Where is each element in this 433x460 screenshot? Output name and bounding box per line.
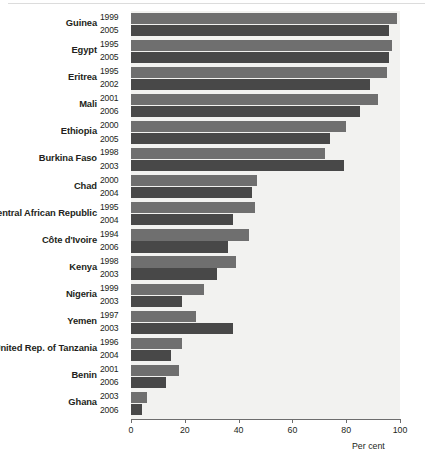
bar-later-survey [131, 268, 217, 279]
bar-later-survey [131, 214, 233, 225]
bar-earlier-survey [131, 94, 378, 105]
bar-group [131, 310, 400, 336]
country-label: Egypt [0, 43, 97, 56]
bar-earlier-survey [131, 67, 387, 78]
page-top-rule [8, 3, 425, 4]
year-label: 2001 [100, 92, 128, 105]
country-label: Mali [0, 97, 97, 110]
chart-row: Burkina Faso19982003 [0, 146, 433, 173]
x-tick [292, 419, 293, 423]
year-label: 2002 [100, 78, 128, 91]
bar-later-survey [131, 404, 142, 415]
x-tick [239, 419, 240, 423]
year-label: 1994 [100, 228, 128, 241]
chart-row: Chad20002004 [0, 174, 433, 201]
bar-group [131, 256, 400, 282]
chart-row: Guinea19992005 [0, 11, 433, 38]
country-label: Benin [0, 368, 97, 381]
country-label: Central African Republic [0, 206, 97, 219]
year-label: 1995 [100, 65, 128, 78]
year-label: 2001 [100, 363, 128, 376]
country-label: Kenya [0, 260, 97, 273]
year-labels: 19952004 [100, 201, 128, 227]
bar-group [131, 229, 400, 255]
year-labels: 20002004 [100, 174, 128, 200]
year-label: 1997 [100, 309, 128, 322]
chart-row: Egypt19952005 [0, 38, 433, 65]
year-labels: 19992005 [100, 11, 128, 37]
year-label: 2006 [100, 105, 128, 118]
country-label: United Rep. of Tanzania [0, 341, 97, 354]
chart-row: United Rep. of Tanzania19962004 [0, 336, 433, 363]
x-axis-line [131, 419, 400, 420]
bar-group [131, 120, 400, 146]
chart-row: Ethiopia20002005 [0, 119, 433, 146]
bar-later-survey [131, 52, 389, 63]
bar-group [131, 93, 400, 119]
bar-earlier-survey [131, 229, 249, 240]
year-label: 2004 [100, 187, 128, 200]
year-label: 1996 [100, 336, 128, 349]
chart-rows: Guinea19992005Egypt19952005Eritrea199520… [0, 11, 433, 417]
year-labels: 19962004 [100, 336, 128, 362]
bar-group [131, 175, 400, 201]
year-label: 2003 [100, 390, 128, 403]
chart-row: Nigeria19992003 [0, 282, 433, 309]
year-label: 2004 [100, 349, 128, 362]
year-label: 1998 [100, 255, 128, 268]
x-tick [131, 419, 132, 423]
year-label: 2004 [100, 214, 128, 227]
year-label: 2003 [100, 160, 128, 173]
x-axis: 020406080100 Per cent [0, 419, 433, 460]
country-label: Ethiopia [0, 124, 97, 137]
year-labels: 20012006 [100, 363, 128, 389]
x-axis-label: Per cent [352, 441, 385, 451]
bar-later-survey [131, 296, 182, 307]
year-labels: 19952002 [100, 65, 128, 91]
year-label: 2003 [100, 322, 128, 335]
country-label: Chad [0, 179, 97, 192]
year-label: 2000 [100, 119, 128, 132]
year-label: 2006 [100, 241, 128, 254]
x-tick [400, 419, 401, 423]
bar-earlier-survey [131, 148, 325, 159]
year-label: 1998 [100, 146, 128, 159]
chart-row: Mali20012006 [0, 92, 433, 119]
year-label: 1999 [100, 282, 128, 295]
year-labels: 20032006 [100, 390, 128, 416]
bar-later-survey [131, 323, 233, 334]
x-tick [346, 419, 347, 423]
bar-earlier-survey [131, 13, 397, 24]
bar-later-survey [131, 377, 166, 388]
bar-group [131, 66, 400, 92]
bar-group [131, 364, 400, 390]
bar-later-survey [131, 79, 370, 90]
year-label: 2005 [100, 51, 128, 64]
bar-earlier-survey [131, 121, 346, 132]
year-labels: 19982003 [100, 146, 128, 172]
year-labels: 20012006 [100, 92, 128, 118]
year-label: 2003 [100, 295, 128, 308]
x-tick-label: 0 [129, 425, 134, 435]
bar-group [131, 12, 400, 38]
year-labels: 20002005 [100, 119, 128, 145]
x-tick-label: 60 [287, 425, 297, 435]
bar-earlier-survey [131, 175, 257, 186]
year-label: 1995 [100, 38, 128, 51]
bar-earlier-survey [131, 311, 196, 322]
chart-row: Benin20012006 [0, 363, 433, 390]
year-label: 2005 [100, 24, 128, 37]
chart-row: Ghana20032006 [0, 390, 433, 417]
bar-later-survey [131, 25, 389, 36]
bar-group [131, 283, 400, 309]
x-tick [185, 419, 186, 423]
year-label: 2003 [100, 268, 128, 281]
bar-group [131, 39, 400, 65]
bar-earlier-survey [131, 365, 179, 376]
country-label: Guinea [0, 16, 97, 29]
year-labels: 19952005 [100, 38, 128, 64]
bar-later-survey [131, 106, 360, 117]
year-labels: 19942006 [100, 228, 128, 254]
country-label: Eritrea [0, 70, 97, 83]
bar-later-survey [131, 160, 344, 171]
